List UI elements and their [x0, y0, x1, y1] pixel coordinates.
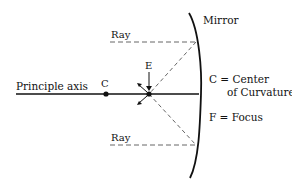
- center-of-curvature-point: [103, 91, 108, 96]
- mirror-label: Mirror: [203, 15, 239, 26]
- arrow-up-left-shaft: [139, 85, 147, 92]
- point-c-label: C: [101, 79, 109, 89]
- ray-diagram: Principle axis Mirror Ray Ray C E C = Ce…: [0, 0, 292, 185]
- legend-f: F = Focus: [209, 112, 263, 123]
- legend-c-line2: of Curvature: [227, 87, 292, 98]
- reflected-ray-top: [149, 42, 196, 94]
- ray-bottom-label: Ray: [111, 133, 130, 143]
- mirror-curve: [189, 13, 201, 178]
- reflected-ray-bottom: [149, 94, 196, 145]
- point-e-label: E: [145, 61, 152, 71]
- legend-c-line1: C = Center: [209, 74, 269, 85]
- principal-axis-label: Principle axis: [16, 81, 88, 92]
- arrow-down-left-shaft: [139, 96, 147, 103]
- ray-top-label: Ray: [111, 30, 130, 40]
- focus-point: [146, 91, 151, 96]
- e-arrow-head-icon: [146, 86, 152, 91]
